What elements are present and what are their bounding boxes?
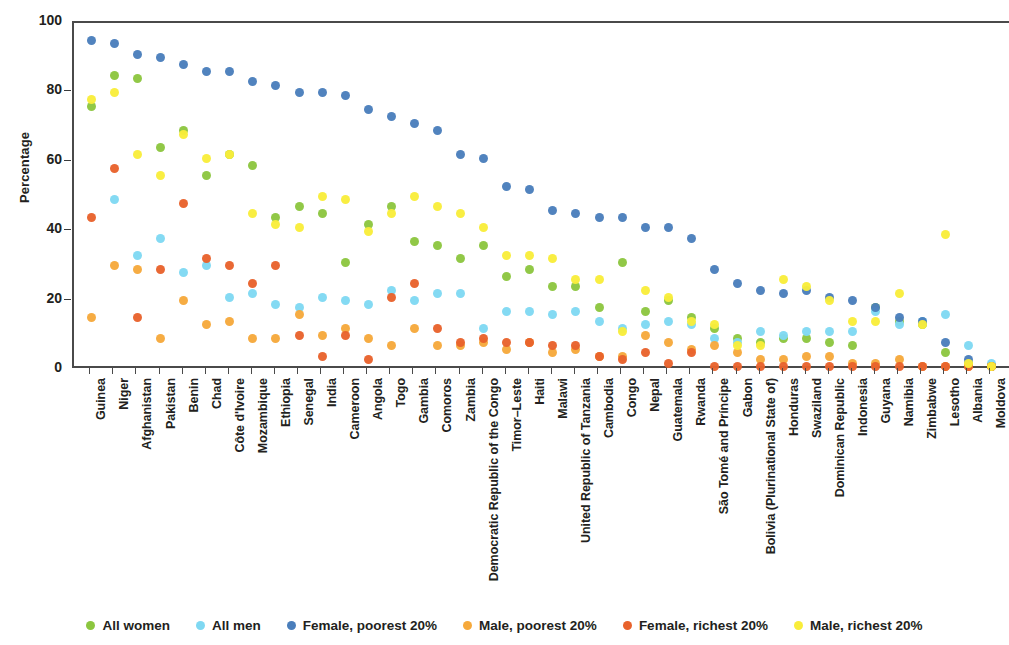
legend-swatch-icon <box>196 621 205 630</box>
x-tick-mark <box>297 368 298 374</box>
data-point <box>525 338 534 347</box>
x-tick-mark <box>574 368 575 374</box>
data-point <box>825 327 834 336</box>
x-tick-mark <box>851 368 852 374</box>
data-point <box>248 77 257 86</box>
data-point <box>641 320 650 329</box>
data-point <box>364 334 373 343</box>
data-point <box>295 223 304 232</box>
data-point <box>179 268 188 277</box>
legend-item[interactable]: Female, richest 20% <box>623 618 768 633</box>
data-point <box>318 293 327 302</box>
x-tick-mark <box>435 368 436 374</box>
data-point <box>110 195 119 204</box>
x-tick-label: Gabon <box>741 378 755 417</box>
x-tick-mark <box>989 368 990 374</box>
legend-swatch-icon <box>287 621 296 630</box>
x-tick-mark <box>920 368 921 374</box>
x-tick-label: Togo <box>394 378 408 407</box>
chart-legend: All womenAll menFemale, poorest 20%Male,… <box>0 618 1009 633</box>
x-tick-mark <box>966 368 967 374</box>
data-point <box>664 359 673 368</box>
data-point <box>87 313 96 322</box>
x-tick-mark <box>528 368 529 374</box>
data-point <box>179 199 188 208</box>
legend-item[interactable]: Male, richest 20% <box>794 618 923 633</box>
x-tick-mark <box>343 368 344 374</box>
x-tick-mark <box>805 368 806 374</box>
legend-label: Female, richest 20% <box>639 618 768 633</box>
x-tick-mark <box>782 368 783 374</box>
x-tick-label: Cambodia <box>602 378 616 438</box>
data-point <box>687 234 696 243</box>
data-point <box>110 71 119 80</box>
x-tick-label: Rwanda <box>694 378 708 426</box>
x-tick-mark <box>412 368 413 374</box>
x-tick-mark <box>736 368 737 374</box>
data-point <box>133 50 142 59</box>
data-point <box>341 296 350 305</box>
x-tick-label: Cameroon <box>348 378 362 439</box>
data-point <box>410 237 419 246</box>
y-tick-label: 40 <box>22 221 62 235</box>
x-tick-mark <box>89 368 90 374</box>
data-point <box>295 88 304 97</box>
data-point <box>87 36 96 45</box>
data-point <box>848 296 857 305</box>
legend-item[interactable]: Female, poorest 20% <box>287 618 437 633</box>
data-point <box>202 154 211 163</box>
data-point <box>341 195 350 204</box>
y-tick-mark <box>64 90 71 91</box>
data-point <box>895 313 904 322</box>
data-point <box>525 307 534 316</box>
x-tick-label: United Republic of Tanzania <box>579 378 593 543</box>
data-point <box>202 320 211 329</box>
data-point <box>295 331 304 340</box>
data-point <box>848 317 857 326</box>
chart-figure: Percentage 020406080100 GuineaNigerAfgha… <box>0 0 1009 645</box>
x-tick-label: Benin <box>187 378 201 412</box>
data-point <box>433 241 442 250</box>
data-point <box>410 192 419 201</box>
data-point <box>595 303 604 312</box>
data-point <box>225 261 234 270</box>
data-point <box>248 289 257 298</box>
legend-swatch-icon <box>86 621 95 630</box>
x-tick-label: Moldova <box>994 378 1008 428</box>
data-point <box>433 289 442 298</box>
x-tick-mark <box>828 368 829 374</box>
y-tick-label: 80 <box>22 82 62 96</box>
x-axis-ticks <box>72 368 1009 378</box>
legend-label: All women <box>102 618 170 633</box>
data-point <box>318 331 327 340</box>
data-point <box>248 279 257 288</box>
data-point <box>364 355 373 364</box>
data-point <box>133 313 142 322</box>
x-tick-label: Honduras <box>787 378 801 436</box>
x-tick-label: India <box>325 378 339 407</box>
y-tick-mark <box>64 160 71 161</box>
data-point <box>248 334 257 343</box>
x-tick-label: Senegal <box>302 378 316 426</box>
data-point <box>225 317 234 326</box>
data-point <box>479 223 488 232</box>
legend-item[interactable]: All women <box>86 618 170 633</box>
data-point <box>202 67 211 76</box>
data-point <box>779 275 788 284</box>
data-point <box>156 265 165 274</box>
data-point <box>964 359 973 368</box>
y-tick-label: 60 <box>22 152 62 166</box>
legend-item[interactable]: Male, poorest 20% <box>463 618 597 633</box>
data-point <box>387 209 396 218</box>
x-tick-label: Bolivia (Plurinational State of) <box>764 378 778 554</box>
data-point <box>179 60 188 69</box>
data-point <box>548 310 557 319</box>
x-tick-label: Guinea <box>94 378 108 420</box>
data-point <box>341 331 350 340</box>
data-point <box>618 327 627 336</box>
x-tick-label: Dominican Republic <box>833 378 847 497</box>
data-point <box>802 352 811 361</box>
data-point <box>964 341 973 350</box>
data-point <box>641 348 650 357</box>
legend-item[interactable]: All men <box>196 618 261 633</box>
